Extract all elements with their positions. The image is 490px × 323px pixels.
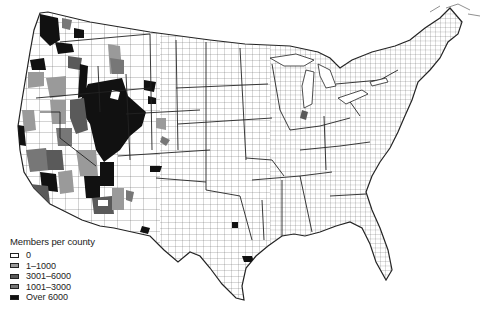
legend-swatch [10,263,19,268]
legend-label: 1–1000 [26,261,56,271]
legend-item-4: Over 6000 [10,292,95,303]
legend-title: Members per county [10,236,95,247]
legend-item-3: 1001–3000 [10,282,95,293]
legend-swatch [10,284,19,289]
legend-swatch [10,295,19,300]
legend-item-1: 1–1000 [10,261,95,272]
legend-swatch [10,274,19,279]
legend-item-2: 3001–6000 [10,271,95,282]
legend-label: 1001–3000 [26,282,71,292]
legend-label: Over 6000 [26,292,68,302]
legend-label: 0 [26,250,31,260]
legend-swatch [10,253,19,258]
legend-item-0: 0 [10,250,95,261]
legend-label: 3001–6000 [26,271,71,281]
legend: Members per county 0 1–1000 3001–6000 10… [10,236,95,303]
